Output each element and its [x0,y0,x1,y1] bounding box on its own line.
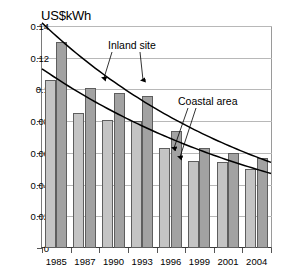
annotation-inland-site: Inland site [108,39,156,51]
x-tick-mark [242,248,243,253]
x-tick-mark [271,248,272,253]
bar-group [242,26,271,248]
bar-coastal-1990 [102,120,113,248]
x-tick-mark [214,248,215,253]
bar-inland-1999 [199,148,210,248]
bar-coastal-1999 [188,161,199,248]
bar-group [71,26,100,248]
bar-group [157,26,186,248]
bar-coastal-2004 [245,169,256,248]
x-tick-label: 2004 [246,256,267,267]
x-tick-label: 1996 [160,256,181,267]
x-tick-label: 1985 [46,256,67,267]
chart-container: US$kWh 00.020.040.060.080.10.120.14 1985… [0,0,286,279]
bar-inland-1993 [142,96,153,248]
bar-group [185,26,214,248]
bar-inland-1987 [85,88,96,248]
x-tick-label: 1987 [74,256,95,267]
annotation-coastal-area: Coastal area [178,95,238,107]
x-tick-mark [157,248,158,253]
bar-coastal-1985 [45,80,56,248]
x-tick-mark [128,248,129,253]
bar-group [99,26,128,248]
bar-inland-2001 [228,153,239,248]
x-tick-label: 1993 [132,256,153,267]
bar-inland-1990 [114,93,125,248]
bar-series-layer [42,26,271,248]
bar-coastal-1996 [159,148,170,248]
bar-coastal-1987 [73,113,84,248]
bar-inland-1996 [171,131,182,248]
bar-coastal-2001 [217,162,228,248]
bar-group [128,26,157,248]
bar-coastal-1993 [131,121,142,248]
x-tick-mark [99,248,100,253]
bar-inland-2004 [257,158,268,248]
x-tick-label: 1990 [103,256,124,267]
x-tick-label: 2001 [217,256,238,267]
bar-group [42,26,71,248]
x-tick-mark [185,248,186,253]
x-tick-mark [71,248,72,253]
x-tick-label: 1999 [189,256,210,267]
x-tick-mark [42,248,43,253]
bar-group [214,26,243,248]
bar-inland-1985 [56,42,67,248]
